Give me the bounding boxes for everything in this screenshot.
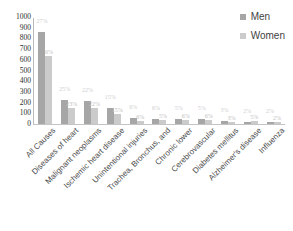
bar-women[interactable]: 5% xyxy=(251,18,258,124)
bar-rect xyxy=(152,119,159,124)
bar-rect xyxy=(221,121,228,124)
bar-men[interactable]: 6% xyxy=(152,18,159,124)
bar-rect xyxy=(45,56,52,124)
bar-rect xyxy=(38,32,45,124)
bar-rect xyxy=(228,122,235,124)
chart-title xyxy=(0,0,293,3)
bar-group: 5%6% xyxy=(194,18,217,124)
bar-value-label: 6% xyxy=(45,49,53,55)
bar-value-label: 15% xyxy=(112,107,123,113)
bar-women[interactable]: 23% xyxy=(68,18,75,124)
bar-women[interactable]: 6% xyxy=(182,18,189,124)
bar-group: 27%6% xyxy=(34,18,57,124)
bar-men[interactable]: 3% xyxy=(221,18,228,124)
y-axis: 10009008007006005004003002001000 xyxy=(7,17,31,125)
x-axis-line xyxy=(33,124,285,125)
bar-women[interactable]: 6% xyxy=(137,18,144,124)
bar-men[interactable]: 25% xyxy=(61,18,68,124)
bar-men[interactable]: 6% xyxy=(130,18,137,124)
bar-women[interactable]: 3% xyxy=(228,18,235,124)
bar-women[interactable]: 6% xyxy=(205,18,212,124)
bar-value-label: 23% xyxy=(66,101,77,107)
bar-women[interactable]: 22% xyxy=(91,18,98,124)
bar-men[interactable]: 2% xyxy=(267,18,274,124)
bar-men[interactable]: 5% xyxy=(175,18,182,124)
bar-rect xyxy=(91,108,98,124)
bar-value-label: 6% xyxy=(182,113,190,119)
bar-women[interactable]: 2% xyxy=(274,18,281,124)
bar-value-label: 5% xyxy=(159,113,167,119)
bar-rect xyxy=(182,120,189,124)
y-tick-label: 400 xyxy=(20,77,31,85)
bar-rect xyxy=(244,122,251,124)
bar-men[interactable]: 5% xyxy=(198,18,205,124)
y-tick-label: 200 xyxy=(20,99,31,107)
bar-value-label: 5% xyxy=(250,114,258,120)
y-tick-label: 500 xyxy=(20,67,31,75)
bar-value-label: 3% xyxy=(227,115,235,121)
bar-rect xyxy=(267,122,274,124)
bar-group: 6%5% xyxy=(148,18,171,124)
bar-rect xyxy=(137,121,144,124)
bar-value-label: 22% xyxy=(89,101,100,107)
bar-rect xyxy=(68,108,75,124)
bar-women[interactable]: 5% xyxy=(159,18,166,124)
y-tick-label: 900 xyxy=(20,24,31,32)
bar-rect xyxy=(198,119,205,124)
bar-rect xyxy=(114,114,121,124)
bar-group: 2%2% xyxy=(262,18,285,124)
bar-women[interactable]: 6% xyxy=(45,18,52,124)
bar-group: 15%15% xyxy=(102,18,125,124)
bar-rect xyxy=(274,122,281,124)
bar-group: 6%6% xyxy=(125,18,148,124)
bar-rect xyxy=(159,120,166,124)
bar-value-label: 2% xyxy=(273,115,281,121)
bar-rect xyxy=(175,119,182,124)
bar-group: 5%6% xyxy=(171,18,194,124)
y-tick-label: 100 xyxy=(20,110,31,118)
bar-group: 22%22% xyxy=(80,18,103,124)
bar-chart: Men Women 100090080070060050040030020010… xyxy=(0,0,293,231)
bar-value-label: 6% xyxy=(136,114,144,120)
bar-group: 25%23% xyxy=(57,18,80,124)
bar-value-label: 6% xyxy=(205,113,213,119)
bar-group: 3%3% xyxy=(217,18,240,124)
x-axis-labels: All CausesDiseases of heartMalignant neo… xyxy=(0,126,293,231)
bar-men[interactable]: 27% xyxy=(38,18,45,124)
y-tick-label: 600 xyxy=(20,56,31,64)
bar-men[interactable]: 22% xyxy=(84,18,91,124)
plot-area: 27%6%25%23%22%22%15%15%6%6%6%5%5%6%5%6%3… xyxy=(34,18,285,124)
y-tick-label: 700 xyxy=(20,45,31,53)
bar-group: 2%5% xyxy=(239,18,262,124)
y-tick-label: 300 xyxy=(20,88,31,96)
y-tick-label: 1000 xyxy=(16,13,31,21)
bar-women[interactable]: 15% xyxy=(114,18,121,124)
bar-men[interactable]: 2% xyxy=(244,18,251,124)
bar-rect xyxy=(251,121,258,124)
bar-rect xyxy=(205,120,212,124)
y-tick-label: 800 xyxy=(20,35,31,43)
